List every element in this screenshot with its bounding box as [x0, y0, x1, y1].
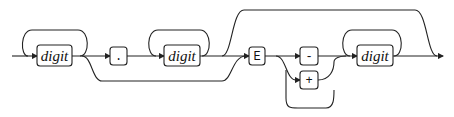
- dot-box: .: [110, 47, 127, 65]
- railroad-diagram: digit . digit E - + digit: [0, 0, 454, 117]
- line-plus-digit3: [318, 56, 346, 80]
- plus-box: +: [300, 71, 318, 89]
- svg-text:+: +: [305, 74, 312, 88]
- digit1-box: digit: [37, 45, 72, 66]
- svg-text:.: .: [115, 50, 122, 64]
- digit2-box: digit: [164, 45, 200, 66]
- E-box: E: [249, 47, 265, 65]
- svg-text:digit: digit: [168, 48, 196, 64]
- svg-text:-: -: [305, 50, 312, 64]
- svg-text:digit: digit: [361, 48, 389, 64]
- svg-text:digit: digit: [41, 48, 69, 64]
- line-E-plus: [276, 56, 300, 80]
- minus-box: -: [300, 47, 318, 65]
- digit3-box: digit: [357, 45, 393, 66]
- svg-text:E: E: [253, 50, 260, 64]
